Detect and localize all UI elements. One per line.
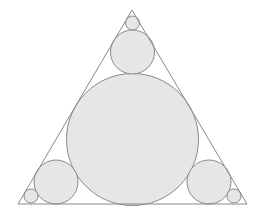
circle-incircle (67, 74, 199, 206)
circles-group (24, 16, 241, 206)
diagram-canvas (0, 0, 263, 214)
circle-left-medium (34, 160, 78, 204)
